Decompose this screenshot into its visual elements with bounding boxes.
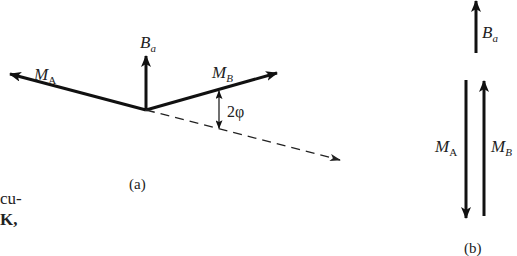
label-m-a-b: MA (435, 138, 457, 155)
label-m-b: MB (212, 64, 233, 81)
label-m-b-b: MB (491, 138, 512, 155)
label-m-a: MA (34, 66, 56, 83)
margin-text-line-1: cu- (0, 190, 22, 207)
margin-text-line-2: K, (0, 211, 17, 228)
label-b-a-b: Ba (482, 24, 498, 41)
panel-a (10, 56, 340, 160)
angle-label: 2φ (227, 104, 244, 120)
caption-a: (a) (129, 177, 146, 192)
label-b-a: Ba (140, 34, 156, 51)
caption-b: (b) (464, 241, 482, 256)
vector-m-a-arrow (10, 74, 146, 110)
